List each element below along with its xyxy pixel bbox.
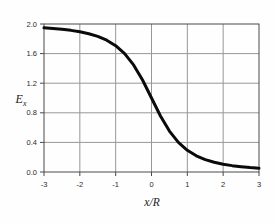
x-tick-label: 2	[221, 180, 225, 189]
x-tick-label: -3	[41, 180, 48, 189]
y-tick-label: 0.0	[27, 168, 37, 177]
plot-area: 0.00.40.81.21.62.0-3-2-10123	[0, 0, 276, 223]
y-tick-label: 1.6	[27, 49, 37, 58]
x-tick-label: -2	[76, 180, 83, 189]
y-tick-label: 2.0	[27, 20, 37, 29]
x-tick-label: 3	[257, 180, 261, 189]
x-tick-label: -1	[112, 180, 119, 189]
x-tick-label: 0	[149, 180, 153, 189]
y-axis-label: Ex	[6, 92, 36, 108]
y-tick-label: 0.8	[27, 108, 37, 117]
x-tick-label: 1	[185, 180, 189, 189]
y-axis-label-subscript: x	[23, 99, 27, 108]
chart-figure: 0.00.40.81.21.62.0-3-2-10123 Ex x/R	[0, 0, 276, 223]
x-axis-label: x/R	[110, 196, 194, 208]
x-axis-label-text: x/R	[144, 196, 159, 208]
y-tick-label: 1.2	[27, 79, 37, 88]
y-tick-label: 0.4	[27, 138, 37, 147]
y-axis-label-base: E	[16, 92, 23, 106]
